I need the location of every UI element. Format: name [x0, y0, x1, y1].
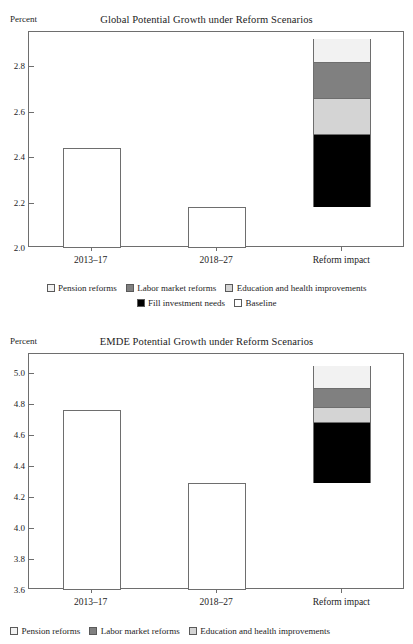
y-tick-label-global-3: 2.6 — [14, 107, 25, 116]
legend-label-global-r1-2: Education and health improvements — [237, 283, 367, 293]
y-tick-label-emde-3: 4.2 — [14, 492, 25, 501]
stack-segment-emde-2 — [314, 388, 370, 407]
x-tick-mark-global-0 — [91, 247, 92, 251]
legend-swatch-icon-emde-r1-2 — [189, 627, 197, 635]
legend-swatch-icon-emde-r1-0 — [10, 627, 18, 635]
stack-segment-emde-1 — [314, 407, 370, 422]
stacked-bar-emde — [313, 366, 371, 482]
legend-label-global-r2-4: Baseline — [246, 298, 277, 308]
y-tick-label-emde-6: 4.8 — [14, 399, 25, 408]
chart-title-emde: EMDE Potential Growth under Reform Scena… — [0, 336, 413, 347]
y-tick-mark-global-4 — [29, 66, 34, 67]
legend-item-global-r1-0: Pension reforms — [47, 283, 117, 293]
legend-swatch-icon-global-r1-2 — [225, 284, 233, 292]
y-tick-mark-emde-2 — [29, 528, 34, 529]
legend-label-global-r2-3: Fill investment needs — [148, 298, 225, 308]
y-tick-mark-global-1 — [29, 203, 34, 204]
y-tick-label-emde-0: 3.6 — [14, 586, 25, 595]
legend-label-global-r1-1: Labor market reforms — [137, 283, 216, 293]
x-tick-mark-global-2 — [341, 247, 342, 251]
y-tick-mark-global-3 — [29, 112, 34, 113]
x-tick-mark-emde-2 — [341, 589, 342, 593]
chart-title-global: Global Potential Growth under Reform Sce… — [0, 14, 413, 25]
stack-segment-emde-0 — [314, 422, 370, 483]
x-tick-mark-emde-1 — [216, 589, 217, 593]
stack-segment-global-1 — [314, 98, 370, 134]
legend-swatch-icon-global-r2-3 — [137, 299, 145, 307]
legend-row-emde-1: Pension reformsLabor market reformsEduca… — [0, 626, 413, 636]
y-tick-label-emde-7: 5.0 — [14, 368, 25, 377]
stacked-bar-global — [313, 39, 371, 207]
legend-item-global-r2-4: Baseline — [234, 298, 277, 308]
x-tick-label-emde-1: 2018–27 — [199, 597, 232, 607]
plot-area-global: 2.02.22.42.62.8 — [28, 31, 404, 247]
y-tick-mark-global-2 — [29, 157, 34, 158]
y-tick-mark-emde-4 — [29, 466, 34, 467]
bar-global-1 — [188, 207, 246, 248]
y-tick-label-global-0: 2.0 — [14, 244, 25, 253]
x-tick-mark-emde-0 — [91, 589, 92, 593]
legend-swatch-icon-global-r2-4 — [234, 299, 242, 307]
legend-swatch-icon-emde-r1-1 — [89, 627, 97, 635]
y-tick-mark-emde-1 — [29, 559, 34, 560]
legend-item-global-r1-1: Labor market reforms — [126, 283, 216, 293]
y-tick-label-global-2: 2.4 — [14, 153, 25, 162]
chart-panel-emde: EMDE Potential Growth under Reform Scena… — [0, 322, 413, 644]
chart-panel-global: Global Potential Growth under Reform Sce… — [0, 0, 413, 320]
y-tick-label-emde-1: 3.8 — [14, 554, 25, 563]
legend-label-emde-r1-0: Pension reforms — [22, 626, 81, 636]
stack-segment-global-3 — [314, 39, 370, 62]
y-tick-mark-emde-3 — [29, 497, 34, 498]
plot-area-emde: 3.63.84.04.24.44.64.85.0 — [28, 353, 404, 589]
legend-item-emde-r1-1: Labor market reforms — [89, 626, 179, 636]
bar-emde-0 — [63, 410, 121, 590]
y-tick-label-emde-5: 4.6 — [14, 430, 25, 439]
y-axis-unit-label-global: Percent — [10, 14, 37, 24]
legend-item-global-r2-3: Fill investment needs — [137, 298, 226, 308]
x-tick-label-global-0: 2013–17 — [74, 255, 107, 265]
legend-item-emde-r1-0: Pension reforms — [10, 626, 80, 636]
y-axis-unit-label-emde: Percent — [10, 336, 37, 346]
legend-label-global-r1-0: Pension reforms — [58, 283, 117, 293]
y-tick-label-global-4: 2.8 — [14, 62, 25, 71]
stack-segment-global-2 — [314, 62, 370, 98]
x-tick-label-global-2: Reform impact — [313, 255, 370, 265]
x-tick-label-emde-2: Reform impact — [313, 597, 370, 607]
bar-global-0 — [63, 148, 121, 248]
y-tick-mark-emde-5 — [29, 435, 34, 436]
legend-row-global-2: Fill investment needsBaseline — [0, 298, 413, 308]
y-tick-label-emde-4: 4.4 — [14, 461, 25, 470]
y-tick-label-emde-2: 4.0 — [14, 523, 25, 532]
legend-label-emde-r1-2: Education and health improvements — [200, 626, 330, 636]
legend-row-global-1: Pension reformsLabor market reformsEduca… — [0, 283, 413, 293]
legend-item-emde-r1-2: Education and health improvements — [189, 626, 330, 636]
legend-swatch-icon-global-r1-0 — [47, 284, 55, 292]
x-tick-label-global-1: 2018–27 — [199, 255, 232, 265]
figure-root: Global Potential Growth under Reform Sce… — [0, 0, 413, 644]
stack-segment-emde-3 — [314, 366, 370, 388]
x-tick-label-emde-0: 2013–17 — [74, 597, 107, 607]
bar-emde-1 — [188, 483, 246, 590]
y-tick-mark-emde-6 — [29, 404, 34, 405]
legend-label-emde-r1-1: Labor market reforms — [101, 626, 180, 636]
x-tick-mark-global-1 — [216, 247, 217, 251]
y-tick-label-global-1: 2.2 — [14, 198, 25, 207]
legend-item-global-r1-2: Education and health improvements — [225, 283, 366, 293]
y-tick-mark-emde-7 — [29, 373, 34, 374]
stack-segment-global-0 — [314, 134, 370, 207]
legend-swatch-icon-global-r1-1 — [126, 284, 134, 292]
